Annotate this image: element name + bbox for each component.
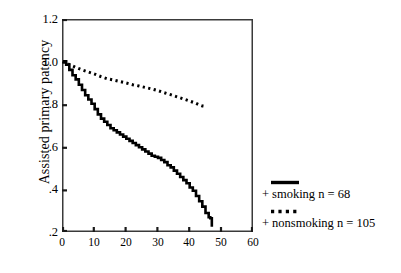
plus-marker-icon: + [262, 217, 269, 230]
chart-figure: Assisted primary patency 1.2 1.0 .8 .6 .… [0, 0, 401, 273]
axis-frame [62, 19, 253, 232]
x-tick-label: 20 [111, 236, 141, 248]
legend-label-nonsmoking: +nonsmoking n = 105 [262, 217, 400, 230]
series-layer [63, 61, 212, 226]
x-tick-label: 30 [143, 236, 173, 248]
x-tick-label: 60 [238, 236, 268, 248]
legend: +smoking n = 68 +nonsmoking n = 105 [262, 178, 400, 236]
legend-entry-nonsmoking: +nonsmoking n = 105 [262, 207, 400, 230]
legend-entry-smoking: +smoking n = 68 [262, 178, 400, 201]
x-tick-label: 0 [47, 236, 77, 248]
dotted-line-icon [270, 207, 400, 216]
plot-area [62, 19, 253, 232]
x-tick-label: 10 [79, 236, 109, 248]
legend-label-nonsmoking-text: nonsmoking n = 105 [272, 216, 375, 230]
plot-svg [62, 19, 253, 232]
solid-line-icon [270, 178, 400, 187]
legend-label-smoking-text: smoking n = 68 [272, 187, 350, 201]
x-tick-label: 50 [206, 236, 236, 248]
plus-marker-icon: + [262, 188, 269, 201]
series-curve-nonsmoking [63, 61, 206, 106]
legend-label-smoking: +smoking n = 68 [262, 188, 400, 201]
x-tick-label: 40 [174, 236, 204, 248]
